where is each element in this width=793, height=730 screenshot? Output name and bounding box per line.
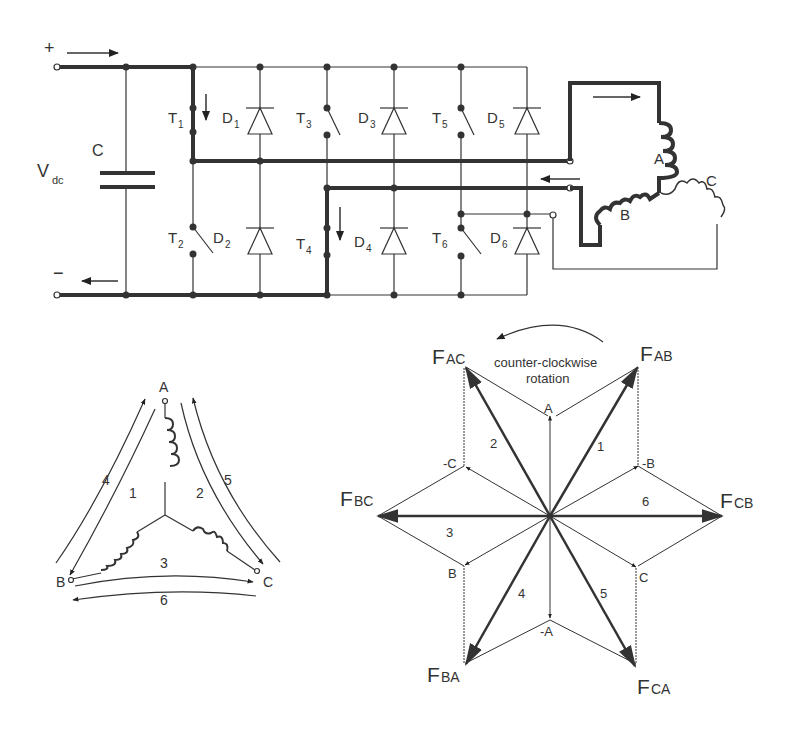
rotation-label: counter-clockwise xyxy=(494,355,597,370)
bldc-drive-diagram: + − V dc C T 1 T 2 T 3 T 4 T 5 T 6 D 1 D… xyxy=(0,0,793,730)
capacitor-label: C xyxy=(92,142,104,159)
diode-d2 xyxy=(246,228,274,254)
motor-phase-b-label: B xyxy=(620,206,630,223)
star-terminal-c-label: C xyxy=(263,574,273,590)
switch-t3-label: T xyxy=(296,109,305,126)
motor-windings xyxy=(553,83,725,269)
diode-d5-label: D xyxy=(487,109,498,126)
vdc-label: V xyxy=(37,161,49,181)
path-label-6: 6 xyxy=(160,592,168,608)
vector-neg-b xyxy=(550,466,638,516)
svg-text:1: 1 xyxy=(234,119,240,130)
vector-c xyxy=(550,516,636,567)
vector-fab xyxy=(550,368,637,516)
switch-t5-label: T xyxy=(432,109,441,126)
phase-neg-a-label: -A xyxy=(540,624,553,639)
svg-text:2: 2 xyxy=(178,239,184,250)
rotation-arrow-icon xyxy=(497,325,603,342)
motor-phase-a-label: A xyxy=(654,150,664,167)
sector-4-label: 4 xyxy=(518,586,525,601)
phase-c-label: C xyxy=(639,570,648,585)
positive-terminal-label: + xyxy=(44,38,55,58)
path-label-1: 1 xyxy=(129,485,137,501)
vector-fcb-label: F xyxy=(720,489,733,512)
svg-text:rotation: rotation xyxy=(526,371,569,386)
svg-text:2: 2 xyxy=(225,239,231,250)
svg-text:BC: BC xyxy=(354,493,373,509)
star-terminal-b-label: B xyxy=(56,574,65,590)
vector-fac-label: F xyxy=(432,345,445,368)
vector-fca xyxy=(550,516,635,666)
star-winding-diagram xyxy=(56,398,280,600)
phase-a-label: A xyxy=(544,401,553,416)
sector-3-label: 3 xyxy=(446,525,453,540)
svg-text:CA: CA xyxy=(651,681,671,697)
switch-t1-label: T xyxy=(168,109,177,126)
svg-text:3: 3 xyxy=(370,119,376,130)
sector-6-label: 6 xyxy=(642,494,649,509)
vector-fac xyxy=(466,368,550,516)
motor-phase-c-label: C xyxy=(706,172,717,189)
phase-neg-c-label: -C xyxy=(443,456,457,471)
svg-text:AC: AC xyxy=(446,351,465,367)
path-label-5: 5 xyxy=(224,472,232,488)
sector-5-label: 5 xyxy=(600,586,607,601)
svg-text:AB: AB xyxy=(654,348,673,364)
svg-text:BA: BA xyxy=(441,669,460,685)
svg-text:dc: dc xyxy=(52,174,64,186)
vector-fab-label: F xyxy=(640,342,653,365)
svg-text:4: 4 xyxy=(306,245,312,256)
switch-t2-label: T xyxy=(168,229,177,246)
svg-text:1: 1 xyxy=(178,119,184,130)
diode-d1 xyxy=(246,108,274,134)
inverter-circuit xyxy=(57,67,568,295)
diode-d2-label: D xyxy=(213,229,224,246)
svg-text:5: 5 xyxy=(442,119,448,130)
switch-t6-label: T xyxy=(432,229,441,246)
negative-terminal-label: − xyxy=(53,263,64,283)
diode-d4 xyxy=(380,228,408,254)
sector-2-label: 2 xyxy=(490,436,497,451)
switch-t4-label: T xyxy=(296,235,305,252)
svg-text:5: 5 xyxy=(499,119,505,130)
svg-text:CB: CB xyxy=(734,495,753,511)
diode-d4-label: D xyxy=(354,233,365,250)
vector-fba-label: F xyxy=(427,663,440,686)
diode-d3 xyxy=(380,108,408,134)
path-label-3: 3 xyxy=(160,555,168,571)
diode-d1-label: D xyxy=(222,109,233,126)
diode-d3-label: D xyxy=(358,109,369,126)
svg-text:4: 4 xyxy=(366,243,372,254)
svg-text:6: 6 xyxy=(442,239,448,250)
path-label-4: 4 xyxy=(102,472,110,488)
diode-d6-label: D xyxy=(490,229,501,246)
sector-1-label: 1 xyxy=(597,439,604,454)
phase-b-label: B xyxy=(448,566,457,581)
diode-d5 xyxy=(513,108,541,134)
star-terminal-a-label: A xyxy=(159,379,169,395)
path-label-2: 2 xyxy=(196,485,204,501)
terminals xyxy=(54,64,573,298)
vector-fca-label: F xyxy=(637,675,650,698)
svg-text:6: 6 xyxy=(502,239,508,250)
diode-d6 xyxy=(513,228,541,254)
svg-text:3: 3 xyxy=(306,119,312,130)
vector-fbc-label: F xyxy=(340,487,353,510)
phase-neg-b-label: -B xyxy=(642,456,655,471)
